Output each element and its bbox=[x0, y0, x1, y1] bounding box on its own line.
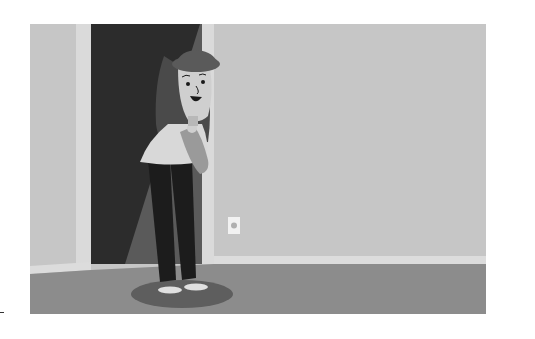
illustration-svg bbox=[30, 24, 486, 314]
shoe-left bbox=[158, 287, 182, 294]
floor bbox=[30, 264, 486, 314]
eye-right bbox=[201, 80, 205, 84]
outlet-socket bbox=[231, 223, 237, 229]
neck bbox=[188, 116, 198, 126]
door-frame-left bbox=[76, 24, 92, 264]
girl-shadow bbox=[131, 280, 233, 308]
eye-left bbox=[186, 82, 190, 86]
shoe-right bbox=[184, 284, 208, 291]
illustration bbox=[30, 24, 486, 314]
baseboard-right bbox=[214, 256, 486, 264]
scan-mark bbox=[0, 312, 4, 313]
